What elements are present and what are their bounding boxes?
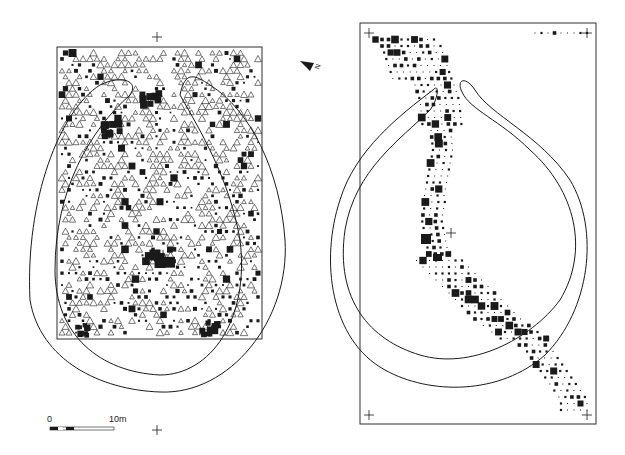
square-find-icon	[425, 78, 426, 79]
square-find-icon	[201, 82, 203, 84]
square-find-icon	[429, 267, 430, 268]
square-find-icon	[430, 208, 431, 209]
square-find-icon	[431, 96, 435, 100]
triangle-find-icon	[108, 151, 115, 157]
triangle-find-icon	[136, 140, 141, 145]
triangle-find-icon	[136, 151, 141, 156]
square-find-icon	[481, 299, 482, 300]
square-find-icon	[421, 111, 422, 112]
square-find-icon	[85, 159, 88, 162]
square-find-icon	[197, 266, 199, 268]
triangle-find-icon	[196, 50, 202, 55]
triangle-find-icon	[220, 235, 226, 240]
triangle-find-icon	[80, 235, 85, 240]
square-find-icon	[425, 98, 426, 99]
triangle-find-icon	[60, 318, 65, 322]
square-find-icon	[169, 182, 173, 186]
triangle-find-icon	[203, 110, 208, 115]
square-find-icon	[441, 117, 442, 118]
triangle-find-icon	[63, 217, 69, 222]
square-find-icon	[254, 76, 256, 78]
triangle-find-icon	[237, 73, 244, 79]
square-find-icon	[176, 266, 179, 269]
square-find-icon	[74, 295, 77, 298]
square-find-icon	[540, 370, 542, 372]
square-find-icon	[85, 134, 89, 138]
triangle-find-icon	[72, 79, 79, 85]
triangle-find-icon	[238, 122, 244, 127]
triangle-find-icon	[238, 50, 244, 55]
square-find-icon	[442, 162, 444, 164]
triangle-find-icon	[122, 175, 127, 180]
triangle-find-icon	[133, 110, 137, 114]
square-find-icon	[435, 169, 436, 170]
square-find-icon	[211, 290, 214, 293]
triangle-find-icon	[90, 109, 97, 116]
triangle-find-icon	[97, 61, 104, 68]
square-find-icon	[488, 299, 489, 300]
square-find-icon	[248, 211, 254, 217]
square-find-icon	[68, 201, 70, 203]
triangle-find-icon	[235, 176, 240, 180]
square-find-icon	[383, 51, 385, 53]
square-find-icon	[488, 312, 489, 313]
square-find-icon	[441, 272, 443, 274]
triangle-find-icon	[203, 205, 208, 209]
square-find-icon	[132, 275, 139, 282]
square-find-icon	[155, 111, 158, 114]
square-find-icon	[145, 177, 147, 179]
triangle-find-icon	[238, 253, 243, 257]
square-find-icon	[253, 242, 256, 245]
triangle-find-icon	[116, 57, 120, 61]
triangle-find-icon	[157, 151, 163, 157]
triangle-find-icon	[122, 151, 128, 157]
square-find-icon	[536, 331, 538, 333]
triangle-find-icon	[105, 300, 110, 305]
square-find-icon	[138, 236, 140, 238]
triangle-find-icon	[192, 127, 199, 133]
square-find-icon	[454, 285, 456, 287]
square-find-icon	[397, 72, 398, 73]
square-find-icon	[235, 200, 238, 203]
square-find-icon	[489, 324, 491, 326]
square-find-icon	[89, 189, 91, 191]
square-find-icon	[460, 123, 462, 125]
square-find-icon	[162, 87, 165, 90]
square-find-icon	[400, 38, 402, 40]
triangle-find-icon	[94, 140, 99, 145]
triangle-find-icon	[104, 204, 111, 210]
square-find-icon	[445, 251, 451, 257]
square-find-icon	[117, 272, 120, 275]
triangle-find-icon	[76, 300, 82, 305]
triangle-find-icon	[154, 312, 160, 317]
triangle-find-icon	[146, 228, 153, 234]
square-find-icon	[514, 324, 518, 328]
square-find-icon	[462, 286, 463, 287]
triangle-find-icon	[123, 69, 127, 73]
triangle-find-icon	[216, 157, 223, 163]
square-find-icon	[435, 71, 437, 73]
triangle-find-icon	[156, 317, 163, 323]
square-find-icon	[82, 176, 85, 179]
square-find-icon	[387, 44, 391, 48]
square-find-icon	[573, 390, 574, 391]
square-find-icon	[114, 266, 116, 268]
triangle-find-icon	[161, 181, 167, 186]
square-find-icon	[446, 182, 447, 183]
triangle-find-icon	[74, 235, 79, 239]
square-find-icon	[494, 312, 495, 313]
triangle-find-icon	[140, 62, 145, 67]
triangle-find-icon	[164, 234, 170, 240]
square-find-icon	[442, 286, 443, 287]
square-find-icon	[567, 33, 568, 34]
square-find-icon	[415, 90, 419, 94]
triangle-find-icon	[101, 270, 108, 276]
triangle-find-icon	[147, 205, 152, 209]
square-find-icon	[474, 311, 476, 313]
triangle-find-icon	[179, 318, 184, 322]
square-find-icon	[574, 410, 575, 411]
triangle-find-icon	[66, 282, 72, 287]
triangle-find-icon	[217, 301, 222, 305]
triangle-find-icon	[150, 55, 157, 61]
square-find-icon	[197, 278, 199, 280]
